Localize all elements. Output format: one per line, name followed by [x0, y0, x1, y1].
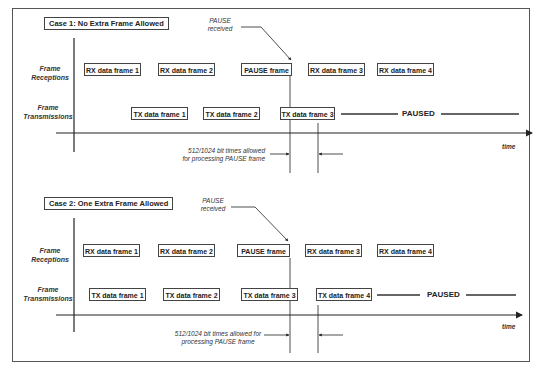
- case1-receptions-label: Frame Receptions: [20, 64, 80, 82]
- pause-label-line2: received: [193, 205, 233, 213]
- pause-label-line2: received: [200, 25, 240, 33]
- case2-rx-frame-2: RX data frame 2: [158, 244, 215, 257]
- case2-title: Case 2: One Extra Frame Allowed: [44, 197, 173, 210]
- case2-time-label: time: [502, 323, 515, 330]
- case2-tx-frame-4: TX data frame 4: [316, 288, 372, 301]
- case1-time-label: time: [502, 143, 515, 150]
- case2-paused-label: PAUSED: [427, 290, 460, 299]
- case1-paused-label: PAUSED: [402, 109, 435, 118]
- case1-rx-frame-3: RX data frame 3: [308, 63, 365, 76]
- case1-rx-frame-2: RX data frame 2: [158, 63, 215, 76]
- case1-transmissions-label: Frame Transmissions: [18, 103, 78, 121]
- row-label-line1: Frame: [18, 103, 78, 112]
- note-line1: 512/1024 bit times allowed for: [168, 330, 268, 338]
- row-label-line2: Transmissions: [18, 112, 78, 121]
- pause-label-line1: PAUSE: [193, 197, 233, 205]
- row-label-line2: Transmissions: [18, 294, 78, 303]
- case1-tx-frame-3: TX data frame 3: [280, 107, 335, 120]
- case2-rx-frame-1: RX data frame 1: [83, 244, 140, 257]
- case1-pause-frame: PAUSE frame: [241, 63, 292, 76]
- case1-tx-frame-1: TX data frame 1: [131, 107, 188, 120]
- case1-pause-received-label: PAUSE received: [200, 17, 240, 33]
- case2-transmissions-label: Frame Transmissions: [18, 285, 78, 303]
- note-line2: processing PAUSE frame: [168, 338, 268, 346]
- case2-pause-received-label: PAUSE received: [193, 197, 233, 213]
- case2-processing-note: 512/1024 bit times allowed for processin…: [168, 330, 268, 346]
- case1-rx-frame-1: RX data frame 1: [84, 63, 141, 76]
- row-label-line1: Frame: [18, 285, 78, 294]
- row-label-line1: Frame: [20, 246, 80, 255]
- case1-title: Case 1: No Extra Frame Allowed: [44, 17, 169, 30]
- case1-processing-note: 512/1024 bit times allowed for processin…: [165, 147, 265, 163]
- note-line2: for processing PAUSE frame: [165, 155, 265, 163]
- row-label-line1: Frame: [20, 64, 80, 73]
- note-line1: 512/1024 bit times allowed: [165, 147, 265, 155]
- case2-rx-frame-3: RX data frame 3: [305, 244, 362, 257]
- case2-receptions-label: Frame Receptions: [20, 246, 80, 264]
- case2-tx-frame-2: TX data frame 2: [163, 288, 220, 301]
- diagram-lines: [0, 0, 541, 373]
- case2-rx-frame-4: RX data frame 4: [377, 244, 434, 257]
- case1-rx-frame-4: RX data frame 4: [377, 63, 434, 76]
- pause-label-line1: PAUSE: [200, 17, 240, 25]
- case2-pause-frame: PAUSE frame: [237, 244, 290, 257]
- case2-tx-frame-3: TX data frame 3: [241, 288, 298, 301]
- case2-tx-frame-1: TX data frame 1: [89, 288, 146, 301]
- row-label-line2: Receptions: [20, 73, 80, 82]
- case1-tx-frame-2: TX data frame 2: [203, 107, 260, 120]
- row-label-line2: Receptions: [20, 255, 80, 264]
